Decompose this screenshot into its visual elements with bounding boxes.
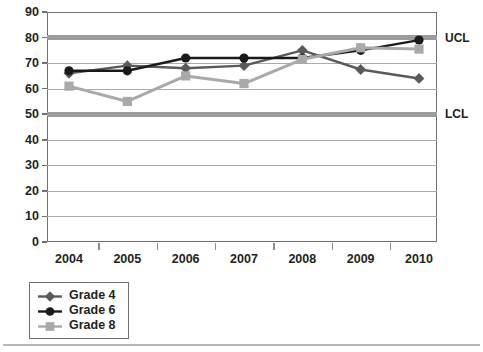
data-point <box>414 36 423 45</box>
y-axis-tick-mark <box>42 37 47 39</box>
control-limit-label-lcl: LCL <box>445 108 468 120</box>
y-axis-tick-label: 80 <box>1 32 39 45</box>
data-point <box>181 71 190 80</box>
x-axis-tick-mark <box>215 243 217 250</box>
chart-legend: Grade 4Grade 6Grade 8 <box>29 282 129 339</box>
y-axis-tick-mark <box>42 113 47 115</box>
y-axis-tick-mark <box>42 165 47 167</box>
series-grade-8 <box>64 43 423 106</box>
x-axis-tick-label: 2009 <box>347 253 375 266</box>
data-point <box>239 79 248 88</box>
legend-item-grade-4[interactable]: Grade 4 <box>37 288 116 303</box>
y-axis-tick-mark <box>42 216 47 218</box>
y-axis-tick-label: 50 <box>1 108 39 121</box>
y-axis-tick-mark <box>42 190 47 192</box>
control-limit-label-ucl: UCL <box>445 32 470 44</box>
y-axis-tick-mark <box>42 88 47 90</box>
x-axis-tick-label: 2007 <box>230 253 258 266</box>
legend-marker-square-icon <box>37 319 63 332</box>
data-point <box>239 53 248 62</box>
data-point <box>298 55 307 64</box>
x-axis-tick-mark <box>273 243 275 250</box>
x-axis-tick-mark <box>98 243 100 250</box>
legend-marker-circle-icon <box>37 304 63 317</box>
x-axis-tick-mark <box>157 243 159 250</box>
y-axis-tick-mark <box>42 241 47 243</box>
y-axis-tick-mark <box>42 11 47 13</box>
legend-marker-diamond-icon <box>37 289 63 302</box>
x-axis-tick-mark <box>390 243 392 250</box>
y-axis-tick-label: 90 <box>1 6 39 19</box>
y-axis-tick-label: 40 <box>1 134 39 147</box>
legend-item-label: Grade 6 <box>69 304 116 317</box>
data-point <box>64 66 73 75</box>
y-axis-tick-mark <box>42 139 47 141</box>
series-layer <box>47 12 437 242</box>
x-axis-tick-label: 2006 <box>172 253 200 266</box>
chart-plot-area <box>47 12 437 242</box>
legend-item-label: Grade 8 <box>69 319 116 332</box>
x-axis-tick-mark <box>332 243 334 250</box>
y-axis-tick-label: 70 <box>1 57 39 70</box>
data-point <box>356 43 365 52</box>
data-point <box>414 73 425 84</box>
x-axis-tick-label: 2005 <box>113 253 141 266</box>
legend-item-grade-8[interactable]: Grade 8 <box>37 318 116 333</box>
series-grade-4 <box>64 45 425 84</box>
legend-item-grade-6[interactable]: Grade 6 <box>37 303 116 318</box>
data-point <box>123 97 132 106</box>
x-axis-tick-label: 2004 <box>55 253 83 266</box>
x-axis-tick-label: 2008 <box>288 253 316 266</box>
y-axis-tick-mark <box>42 62 47 64</box>
x-axis-tick-label: 2010 <box>405 253 433 266</box>
bottom-divider <box>3 344 480 346</box>
chart-figure: 0102030405060708090 20042005200620072008… <box>0 0 483 352</box>
y-axis-tick-label: 20 <box>1 185 39 198</box>
data-point <box>355 64 366 75</box>
y-axis-tick-label: 10 <box>1 210 39 223</box>
data-point <box>414 44 423 53</box>
y-axis-tick-label: 60 <box>1 83 39 96</box>
y-axis-tick-label: 30 <box>1 159 39 172</box>
legend-item-label: Grade 4 <box>69 289 116 302</box>
data-point <box>123 66 132 75</box>
data-point <box>181 53 190 62</box>
y-axis-tick-label: 0 <box>1 236 39 249</box>
data-point <box>64 82 73 91</box>
